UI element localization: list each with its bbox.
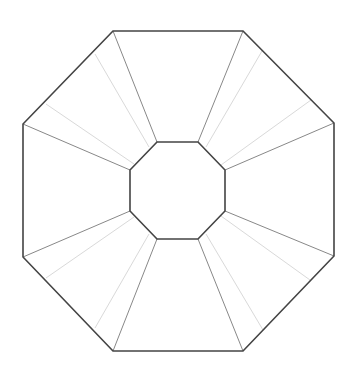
- background: [0, 0, 361, 374]
- octagon-frame-diagram: [0, 0, 361, 374]
